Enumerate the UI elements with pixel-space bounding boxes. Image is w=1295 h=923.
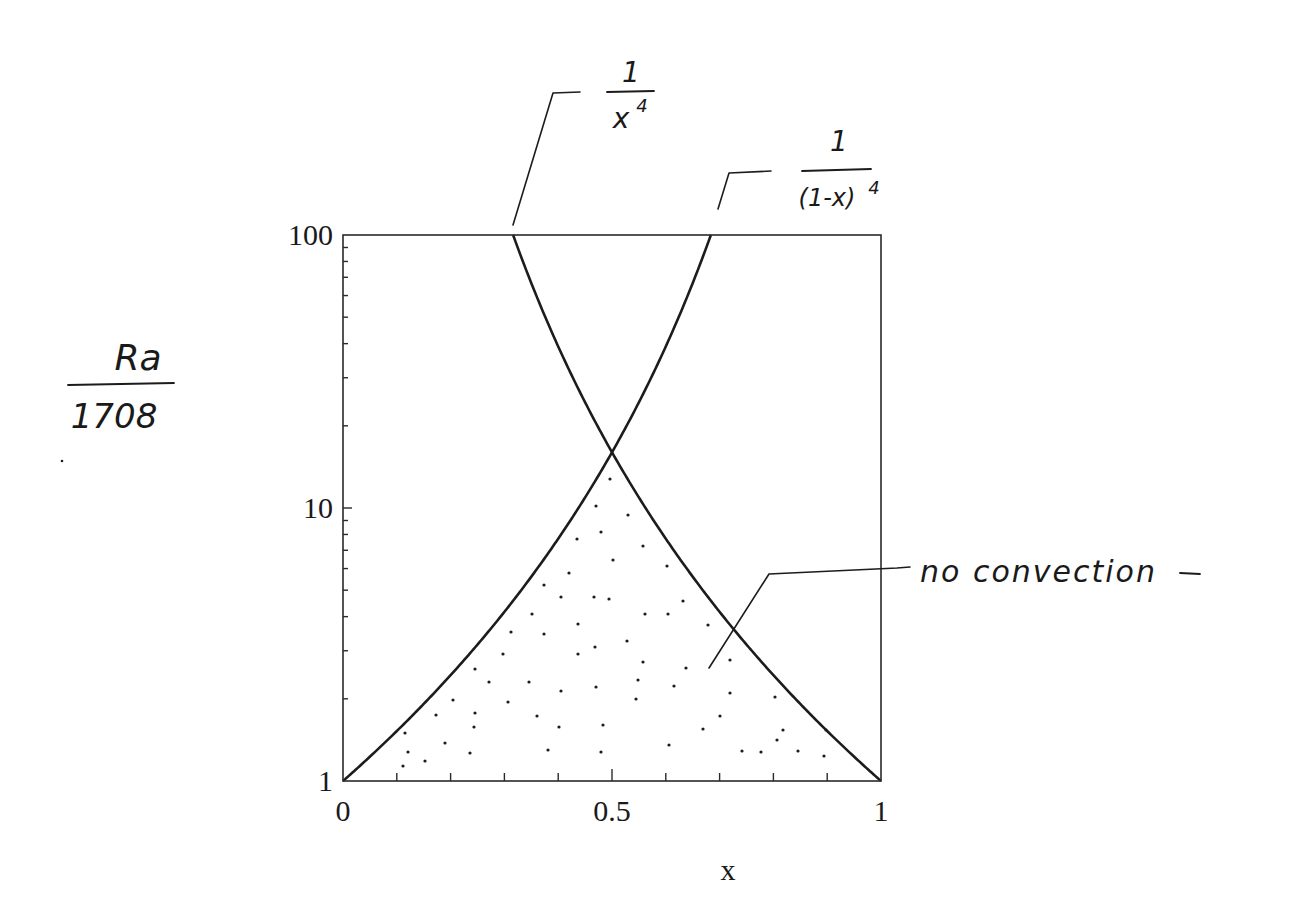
stipple-dot [611,558,614,561]
stipple-dot [473,711,476,714]
annotation-3-leader-line [709,567,910,668]
no-convection-region [401,477,827,767]
stipple-dot [667,743,670,746]
stipple-dot [775,738,778,741]
stipple-dot [672,684,675,687]
stipple-dot [403,731,406,734]
stipple-dot [473,667,476,670]
stipple-dot [773,695,776,698]
stipple-dot [625,639,628,642]
stipple-dot [626,513,629,516]
stipple-dot [530,612,533,615]
axis-ticks [343,247,827,781]
stipple-dot [608,477,611,480]
stipple-dot [643,612,646,615]
stipple-dot [666,612,669,615]
stipple-dot [592,595,595,598]
stipple-dot [443,741,446,744]
stipple-dot [634,697,637,700]
stipple-dot [506,700,509,703]
stipple-dot [599,750,602,753]
stipple-dot [706,623,709,626]
stipple-dot [401,764,404,767]
stipple-dot [740,749,743,752]
stipple-dot [501,652,504,655]
annotation-2-leader-line [718,171,771,209]
annotation-2-denominator: (1-x) [799,184,856,212]
annotation-1-fraction-bar [607,91,654,92]
stipple-dot [557,725,560,728]
stipple-dot [535,714,538,717]
stipple-dot [728,658,731,661]
annotation-2-fraction-bar [802,169,871,171]
stipple-dot [542,583,545,586]
stipple-dot [728,691,731,694]
y-axis-label-numerator: Ra [114,337,161,378]
x-axis-label: x [721,853,736,886]
annotation-3-tail-stroke [1180,573,1200,574]
stipple-dot [701,727,704,730]
stipple-dot [684,666,687,669]
annotation-3-text: no convection [920,554,1157,589]
stipple-dot [781,728,784,731]
stipple-dot [796,749,799,752]
stipple-dot [759,750,762,753]
stipple-dot [559,595,562,598]
stipple-dot [451,698,454,701]
annotation-1-over-x4: 1 x 4 [513,56,654,225]
y-tick-label: 100 [288,218,333,251]
chart-container: 00.51110100 x Ra 1708 1 x 4 1 (1-x) 4 [0,0,1295,923]
series-1-over-1-minus-x4-line [343,235,711,781]
stipple-dot [681,599,684,602]
stipple-dot [406,750,409,753]
stipple-dot [718,714,721,717]
stipple-dot [546,748,549,751]
annotation-no-convection: no convection [709,554,1200,668]
stipple-dot [594,685,597,688]
y-axis-fraction-bar [68,383,174,385]
stipple-dot [665,564,668,567]
stipple-dot [423,759,426,762]
stipple-dot [601,723,604,726]
stipple-dot [576,652,579,655]
stipple-dot [594,504,597,507]
stipple-dot [641,660,644,663]
x-tick-label: 0 [336,794,351,827]
y-axis-label: Ra 1708 [61,337,174,462]
annotation-1-leader-line [513,92,580,225]
stipple-dot [641,544,644,547]
stipple-dot [599,530,602,533]
annotation-2-exponent: 4 [868,177,879,198]
stipple-dot [487,680,490,683]
stipple-dot [527,680,530,683]
annotation-1-over-1-minus-x4: 1 (1-x) 4 [718,125,880,212]
stipple-dot [636,678,639,681]
chart-canvas: 00.51110100 x Ra 1708 1 x 4 1 (1-x) 4 [0,0,1295,923]
axis-tick-labels: 00.51110100 [288,218,889,827]
y-tick-label: 10 [303,491,333,524]
annotation-1-exponent: 4 [636,95,647,116]
stipple-dot [434,713,437,716]
x-tick-label: 1 [874,794,889,827]
stipple-dot [472,725,475,728]
stipple-dot [468,751,471,754]
stipple-dot [575,537,578,540]
y-tick-label: 1 [318,764,333,797]
stipple-dot [542,632,545,635]
y-axis-label-denominator: 1708 [71,396,158,436]
stipple-dot [822,754,825,757]
stipple-dot [607,597,610,600]
series-1-over-x4-line [513,235,881,781]
plot-frame [343,235,881,781]
stipple-dot [593,645,596,648]
stipple-dot [509,630,512,633]
stipple-dot [576,622,579,625]
stipple-dot [559,689,562,692]
x-tick-label: 0.5 [593,794,631,827]
stray-mark [61,460,64,463]
annotation-1-denominator: x [612,102,630,135]
annotation-1-numerator: 1 [622,56,640,89]
annotation-2-numerator: 1 [830,125,848,158]
stipple-dot [567,571,570,574]
